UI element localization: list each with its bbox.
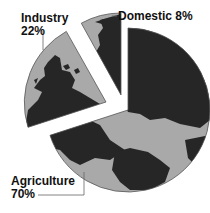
- agriculture-label: Agriculture 70%: [11, 175, 75, 201]
- domestic-label: Domestic 8%: [118, 10, 193, 23]
- industry-label-value: 22%: [21, 25, 68, 38]
- industry-label: Industry 22%: [21, 12, 68, 38]
- agriculture-label-value: 70%: [11, 188, 75, 201]
